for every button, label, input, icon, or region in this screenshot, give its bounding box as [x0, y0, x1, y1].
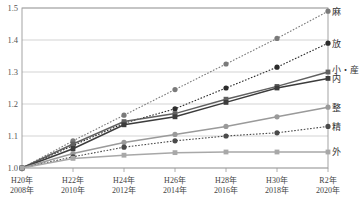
series-label-内: 内	[332, 73, 341, 84]
series-marker-小・産	[71, 142, 76, 147]
series-marker-麻	[274, 36, 279, 41]
series-marker-精	[325, 124, 330, 129]
x-axis-tick-label-era: H26年	[164, 175, 186, 185]
series-marker-精	[172, 138, 177, 143]
series-marker-小・産	[326, 70, 331, 75]
x-axis-tick-label-era: H20年	[11, 175, 33, 185]
series-marker-外	[20, 166, 25, 171]
y-axis-tick-label: 1.1	[7, 131, 18, 141]
series-marker-外	[122, 153, 127, 158]
series-label-精: 精	[332, 121, 341, 132]
series-marker-内	[275, 86, 280, 91]
series-marker-整	[121, 140, 126, 145]
series-marker-放	[325, 41, 330, 46]
series-label-外: 外	[332, 146, 341, 157]
y-axis-tick-label: 1.4	[7, 35, 18, 45]
series-marker-整	[223, 124, 228, 129]
y-axis-tick-label: 1.2	[7, 99, 18, 109]
series-label-放: 放	[332, 38, 341, 49]
series-marker-放	[274, 65, 279, 70]
series-marker-精	[274, 130, 279, 135]
x-axis-tick-label-era: H22年	[62, 175, 84, 185]
line-chart: 1.01.11.21.31.41.5H20年2008年H22年2010年H24年…	[0, 0, 361, 203]
series-marker-整	[325, 105, 330, 110]
x-axis-tick-label-era: H30年	[266, 175, 288, 185]
chart-container: 1.01.11.21.31.41.5H20年2008年H22年2010年H24年…	[0, 0, 361, 203]
x-axis-tick-label-year: 2020年	[316, 185, 340, 195]
series-marker-麻	[121, 113, 126, 118]
y-axis-tick-label: 1.0	[7, 163, 18, 173]
series-marker-外	[224, 150, 229, 155]
series-marker-内	[326, 76, 331, 81]
x-axis-tick-label-year: 2008年	[10, 185, 34, 195]
series-marker-放	[223, 85, 228, 90]
x-axis-tick-label-era: R2年	[319, 175, 336, 185]
x-axis-tick-label-era: H28年	[215, 175, 237, 185]
y-axis-tick-label: 1.3	[7, 67, 18, 77]
x-axis-tick-label-era: H24年	[113, 175, 135, 185]
y-axis-tick-label: 1.5	[7, 3, 18, 13]
x-axis-tick-label-year: 2018年	[265, 185, 289, 195]
series-marker-内	[173, 114, 178, 119]
series-marker-内	[122, 122, 127, 127]
series-marker-放	[172, 106, 177, 111]
series-marker-麻	[325, 9, 330, 14]
x-axis-tick-label-year: 2014年	[163, 185, 187, 195]
x-axis-tick-label-year: 2010年	[61, 185, 85, 195]
series-label-麻: 麻	[332, 6, 341, 17]
series-marker-外	[275, 150, 280, 155]
x-axis-tick-label-year: 2016年	[214, 185, 238, 195]
series-marker-麻	[172, 87, 177, 92]
series-label-整: 整	[332, 102, 341, 113]
series-marker-内	[224, 100, 229, 105]
series-marker-精	[223, 133, 228, 138]
series-marker-外	[326, 150, 331, 155]
series-marker-整	[172, 132, 177, 137]
series-marker-整	[274, 114, 279, 119]
x-axis-tick-label-year: 2012年	[112, 185, 136, 195]
series-marker-外	[71, 156, 76, 161]
series-marker-精	[121, 145, 126, 150]
series-marker-外	[173, 150, 178, 155]
series-marker-麻	[223, 61, 228, 66]
series-marker-内	[71, 146, 76, 151]
